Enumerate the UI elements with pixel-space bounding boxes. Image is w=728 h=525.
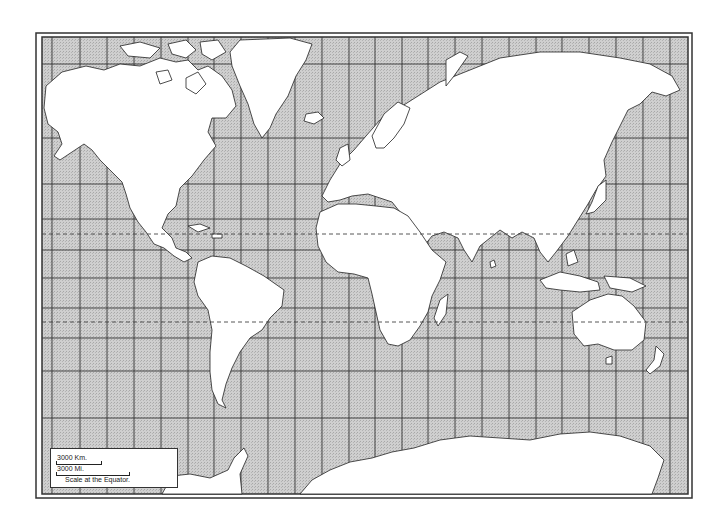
- scale-note: Scale at the Equator.: [65, 476, 130, 483]
- scale-km-label: 3000 Km.: [57, 454, 87, 461]
- scale-legend: 3000 Km. 3000 Mi. Scale at the Equator.: [50, 448, 178, 488]
- scale-mi-label: 3000 Mi.: [57, 465, 84, 472]
- world-map: [0, 0, 728, 525]
